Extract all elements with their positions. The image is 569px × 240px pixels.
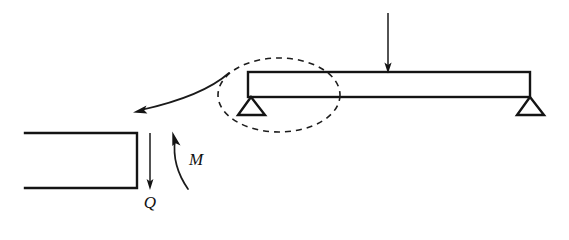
shear-force-indicator: [147, 133, 154, 190]
diagram-canvas: Q M: [0, 0, 569, 240]
right-pin-support-icon: [517, 97, 544, 115]
bending-moment-arc: [174, 140, 188, 189]
bending-moment-indicator: [172, 132, 188, 190]
free-body-outline: [25, 133, 137, 188]
shear-force-label: Q: [144, 193, 156, 212]
beam-assembly: [238, 13, 544, 115]
detail-callout-arrow: [133, 73, 229, 114]
left-pin-support-icon: [238, 97, 265, 115]
callout-arrow-curve: [141, 73, 229, 110]
free-body-cut-section: [25, 133, 137, 188]
bending-moment-label: M: [188, 150, 204, 169]
beam-body: [248, 72, 530, 97]
engineering-diagram-figure: Q M: [0, 0, 569, 240]
detail-ellipse-highlight: [218, 58, 340, 132]
bending-moment-arrowhead-icon: [172, 132, 180, 147]
